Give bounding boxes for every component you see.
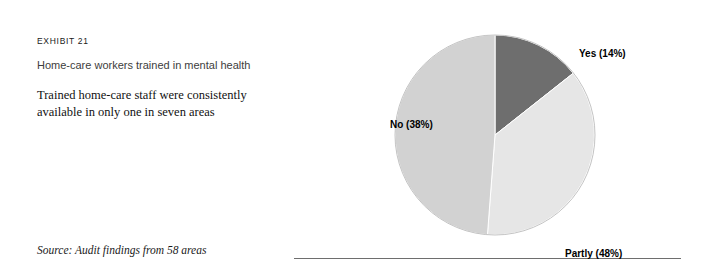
pie-slice-no — [395, 35, 495, 235]
pie-label-no: No (38%) — [390, 119, 433, 130]
pie-svg — [390, 30, 600, 240]
exhibit-description: Trained home-care staff were consistentl… — [37, 87, 252, 121]
bottom-divider — [294, 258, 681, 259]
pie-chart: Yes (14%) No (38%) Partly (48%) — [330, 8, 700, 258]
pie-label-partly: Partly (48%) — [565, 248, 622, 259]
exhibit-title: Home-care workers trained in mental heal… — [37, 57, 267, 73]
pie-label-yes: Yes (14%) — [579, 48, 626, 59]
exhibit-text-column: EXHIBIT 21 Home-care workers trained in … — [37, 36, 297, 121]
exhibit-number-label: EXHIBIT 21 — [37, 36, 297, 46]
pie-graphic: Yes (14%) No (38%) Partly (48%) — [390, 30, 600, 240]
source-note: Source: Audit findings from 58 areas — [37, 244, 206, 256]
exhibit-page: EXHIBIT 21 Home-care workers trained in … — [0, 0, 723, 277]
